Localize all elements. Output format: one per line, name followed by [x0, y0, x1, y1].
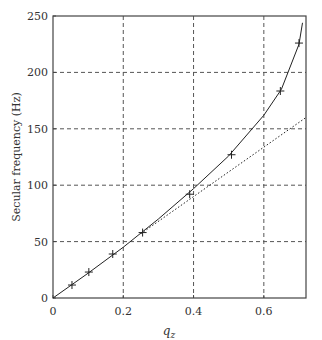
approx-line [141, 118, 306, 234]
x-axis-label: qz [163, 324, 176, 340]
y-tick-label: 200 [27, 66, 48, 79]
x-tick-label: 0.6 [255, 305, 273, 318]
y-tick-label: 250 [27, 10, 48, 23]
y-tick-label: 150 [27, 123, 48, 136]
y-tick-label: 50 [34, 236, 48, 249]
x-tick-label: 0.4 [185, 305, 203, 318]
exact-curve [53, 23, 303, 298]
plot-frame [53, 16, 306, 298]
y-tick-label: 0 [41, 292, 48, 305]
x-tick-label: 0.2 [115, 305, 133, 318]
y-axis-label: Secular frequency (Hz) [10, 92, 23, 222]
plot: 00.20.40.6050100150200250qzSecular frequ… [0, 0, 322, 340]
chart: 00.20.40.6050100150200250qzSecular frequ… [0, 0, 322, 340]
y-tick-label: 100 [27, 179, 48, 192]
x-tick-label: 0 [50, 305, 57, 318]
